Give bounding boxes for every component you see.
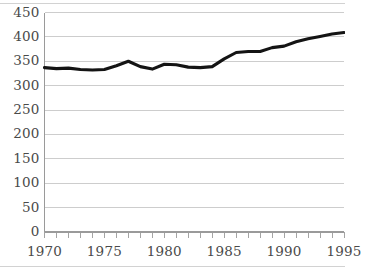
x-tick-label-1970: 1970 — [15, 245, 75, 259]
x-tick-label-1980: 1980 — [134, 245, 194, 259]
y-tick-label-50: 50 — [22, 201, 40, 215]
x-tick-label-1990: 1990 — [254, 245, 314, 259]
y-tick-label-350: 350 — [13, 54, 39, 68]
y-tick-label-200: 200 — [13, 127, 39, 141]
y-tick-label-0: 0 — [31, 225, 40, 239]
y-tick-label-250: 250 — [13, 103, 39, 117]
y-tick-label-100: 100 — [13, 176, 39, 190]
x-axis-tick-marks — [45, 232, 345, 238]
y-tick-label-450: 450 — [13, 6, 39, 20]
y-tick-label-150: 150 — [13, 152, 39, 166]
x-tick-label-1975: 1975 — [74, 245, 134, 259]
x-tick-label-1995: 1995 — [314, 245, 365, 259]
y-tick-label-400: 400 — [13, 30, 39, 44]
data-series-line — [45, 33, 345, 71]
gridlines — [45, 13, 345, 233]
y-tick-label-300: 300 — [13, 79, 39, 93]
x-tick-label-1985: 1985 — [194, 245, 254, 259]
